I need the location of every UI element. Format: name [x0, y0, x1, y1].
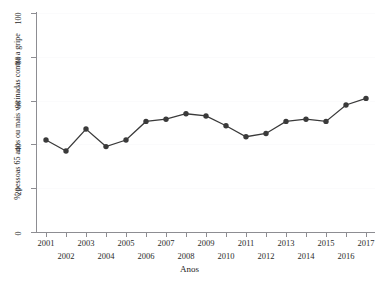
data-point-2014 [303, 117, 308, 122]
data-point-2015 [323, 119, 328, 124]
data-point-2003 [83, 126, 88, 131]
chart-figure: 100 80 60 40 20 0 % pessoas 65 anos ou m… [0, 0, 379, 284]
data-point-2005 [123, 137, 128, 142]
data-point-2009 [203, 113, 208, 118]
series-line [46, 98, 366, 151]
data-point-2004 [103, 144, 108, 149]
data-point-2013 [283, 119, 288, 124]
series-markers [43, 96, 368, 154]
series-layer [0, 0, 379, 284]
x-axis-title: Anos [0, 264, 379, 274]
data-point-2007 [163, 117, 168, 122]
data-point-2006 [143, 119, 148, 124]
data-point-2017 [363, 96, 368, 101]
data-point-2002 [63, 148, 68, 153]
data-point-2012 [263, 131, 268, 136]
data-point-2001 [43, 137, 48, 142]
data-point-2011 [243, 134, 248, 139]
data-point-2016 [343, 102, 348, 107]
data-point-2010 [223, 123, 228, 128]
data-point-2008 [183, 111, 188, 116]
